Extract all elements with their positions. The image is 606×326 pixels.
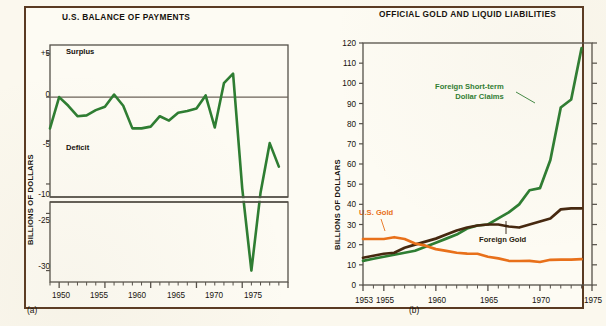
panel-b-ytick-40: 40 [347,200,357,209]
panel-b-series-foreign-gold [363,208,582,257]
panel-b-ytick-10: 10 [347,261,357,270]
panel-b-ytick-80: 80 [347,120,357,129]
panel-b-series-u-s-gold [363,237,582,262]
panel-b-ytick-20: 20 [347,241,357,250]
panel-a: U.S. BALANCE OF PAYMENTS BILLIONS OF DOL… [0,0,303,326]
panel-b-ytick-60: 60 [347,160,357,169]
panel-b: OFFICIAL GOLD AND LIQUID LIABILITIES BIL… [303,0,606,326]
figure-root: U.S. BALANCE OF PAYMENTS BILLIONS OF DOL… [0,0,606,326]
panel-b-ytick-120: 120 [342,39,356,48]
panel-b-ytick-90: 90 [347,100,357,109]
panel-b-ytick-30: 30 [347,221,357,230]
panel-b-plot: 0102030405060708090100110120 [303,0,606,326]
panel-b-series-foreign-short-term-dollar-claims [363,48,582,261]
panel-b-ytick-0: 0 [351,281,356,290]
panel-b-ytick-50: 50 [347,180,357,189]
panel-b-ytick-110: 110 [343,59,356,68]
panel-b-ytick-100: 100 [342,79,356,88]
panel-a-plot [0,0,303,326]
panel-b-ytick-70: 70 [347,140,357,149]
